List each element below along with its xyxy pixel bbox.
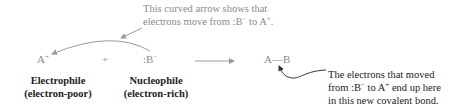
bond-pointer-icon xyxy=(279,66,326,78)
caption-pointer-icon xyxy=(121,28,142,38)
curved-electron-arrow-icon xyxy=(52,41,150,54)
arrows-layer xyxy=(0,0,464,112)
